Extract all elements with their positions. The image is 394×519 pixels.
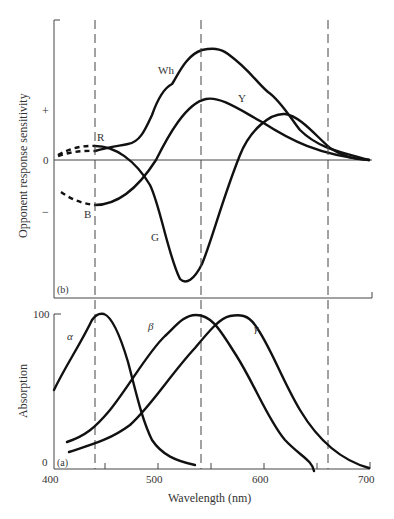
y-tick-100: 100	[33, 308, 50, 320]
x-tick-700: 700	[358, 473, 375, 485]
x-axis-title: Wavelength (nm)	[168, 491, 251, 505]
x-tick-400: 400	[42, 473, 59, 485]
y-tick-0: 0	[42, 456, 48, 468]
label-b: B	[84, 208, 91, 220]
curve-b-dashed	[61, 192, 95, 205]
y-axis-title-a: Absorption	[16, 364, 30, 418]
curve-r-dashed	[58, 146, 95, 155]
panel-b-frame	[54, 20, 372, 298]
label-gamma: γ	[254, 322, 259, 334]
curve-gamma	[69, 315, 369, 468]
label-wh: Wh	[158, 64, 174, 76]
curve-gamma-beta	[67, 315, 314, 471]
curve-wh-dashed	[58, 151, 95, 156]
x-tick-600: 600	[252, 473, 269, 485]
panel-a-frame	[54, 314, 370, 469]
panel-b: + 0 − (b) Opponent response sensitivity …	[16, 20, 372, 298]
label-beta: β	[147, 320, 154, 332]
x-tick-500: 500	[146, 473, 163, 485]
chart-figure: + 0 − (b) Opponent response sensitivity …	[0, 0, 394, 519]
panel-a-label: (a)	[57, 457, 68, 469]
label-alpha: α	[67, 330, 73, 342]
minus-label: −	[42, 205, 49, 219]
plus-label: +	[42, 104, 49, 118]
x-ticks	[105, 463, 317, 469]
y-axis-title-b: Opponent response sensitivity	[16, 93, 30, 238]
label-g: G	[151, 231, 159, 243]
label-r: R	[97, 131, 105, 143]
panel-b-label: (b)	[57, 284, 69, 296]
zero-label-b: 0	[43, 154, 49, 166]
panel-a: 100 0 (a) 400 500 600 700 Wavelength (nm…	[16, 308, 375, 505]
label-y: Y	[238, 92, 246, 104]
